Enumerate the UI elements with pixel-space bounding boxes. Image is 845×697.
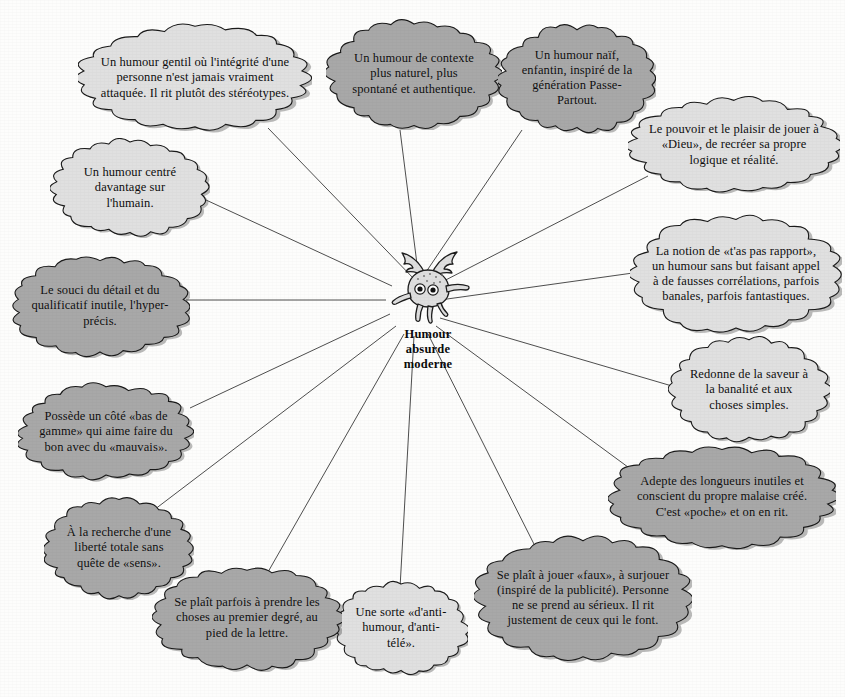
cloud-node-label: Le souci du détail et du qualificatif in…	[31, 283, 169, 329]
center-label-line: absurde	[404, 342, 453, 357]
cloud-node-label: À la recherche d'une liberté totale sans…	[65, 525, 173, 571]
center-label-line: Humour	[404, 327, 453, 342]
cloud-node-label: Adepte des longueurs inutiles et conscie…	[629, 474, 815, 520]
cloud-node-label: La notion de «t'as pas rapport», un humo…	[651, 244, 821, 305]
mind-map-canvas: Un humour gentil où l'intégrité d'une pe…	[0, 0, 845, 697]
cloud-node-label: Se plaît à jouer «faux», à surjouer (ins…	[495, 568, 671, 629]
cloud-node-label: Redonne de la saveur à la banalité et au…	[689, 367, 809, 413]
cloud-node-basdegamme[interactable]: Possède un côté «bas de gamme» qui aime …	[18, 382, 194, 482]
cloud-node-label: Un humour de contexte plus naturel, plus…	[347, 51, 481, 97]
cloud-node-contexte[interactable]: Un humour de contexte plus naturel, plus…	[326, 18, 502, 130]
cloud-node-rapport[interactable]: La notion de «t'as pas rapport», un humo…	[630, 212, 842, 336]
cloud-node-label: Un humour naïf, enfantin, inspiré de la …	[519, 48, 635, 109]
cloud-node-dieu[interactable]: Le pouvoir et le plaisir de jouer à «Die…	[628, 96, 840, 194]
winged-octopus-icon	[382, 248, 474, 326]
cloud-node-banalite[interactable]: Redonne de la saveur à la banalité et au…	[668, 336, 830, 444]
cloud-node-label: Un humour centré davantage sur l'humain.	[71, 165, 189, 211]
cloud-node-label: Un humour gentil où l'intégrité d'une pe…	[99, 55, 291, 101]
center-node[interactable]: Humourabsurdemoderne	[368, 248, 488, 378]
cloud-node-antihumour[interactable]: Une sorte «d'anti-humour, d'anti-télé».	[334, 580, 468, 676]
cloud-node-faux[interactable]: Se plaît à jouer «faux», à surjouer (ins…	[474, 532, 692, 664]
center-node-label: Humourabsurdemoderne	[404, 327, 453, 371]
cloud-node-label: Le pouvoir et le plaisir de jouer à «Die…	[649, 122, 819, 168]
cloud-node-humain[interactable]: Un humour centré davantage sur l'humain.	[50, 138, 210, 238]
center-label-line: moderne	[404, 357, 453, 372]
cloud-node-label: Se plaît parfois à prendre les choses au…	[173, 595, 321, 641]
cloud-node-detail[interactable]: Le souci du détail et du qualificatif in…	[10, 254, 190, 358]
cloud-node-label: Une sorte «d'anti-humour, d'anti-télé».	[355, 605, 447, 651]
cloud-node-liberte[interactable]: À la recherche d'une liberté totale sans…	[44, 496, 194, 600]
cloud-node-label: Possède un côté «bas de gamme» qui aime …	[39, 409, 173, 455]
cloud-node-gentil[interactable]: Un humour gentil où l'intégrité d'une pe…	[78, 22, 312, 134]
